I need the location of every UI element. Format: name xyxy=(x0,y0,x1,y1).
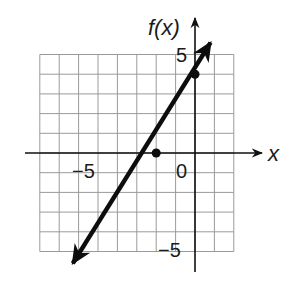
y-tick-5: 5 xyxy=(176,44,187,66)
x-tick-0: 0 xyxy=(176,160,187,182)
marked-point xyxy=(191,70,200,79)
y-axis-label: f(x) xyxy=(148,15,180,40)
y-tick-neg5: −5 xyxy=(158,239,181,261)
marked-point xyxy=(152,149,161,158)
x-tick-neg5: −5 xyxy=(72,160,95,182)
x-axis-label: x xyxy=(267,141,280,166)
function-graph: f(x) x −5 0 5 −5 xyxy=(0,0,295,290)
